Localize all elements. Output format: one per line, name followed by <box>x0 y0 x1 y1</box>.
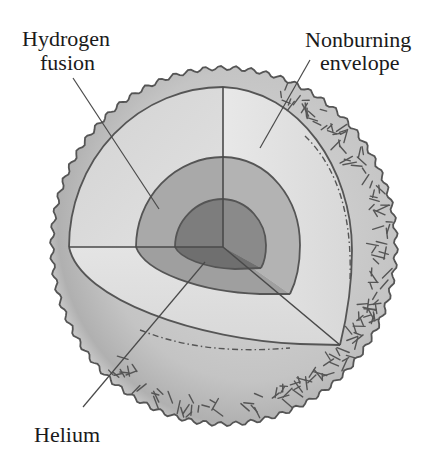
label-hydrogen-fusion-line1: Hydrogen <box>22 26 110 51</box>
label-hydrogen-fusion-line2: fusion <box>40 50 95 75</box>
label-nonburning-envelope-line2: envelope <box>320 50 399 75</box>
label-nonburning-envelope-line1: Nonburning <box>305 27 411 52</box>
label-helium: Helium <box>34 422 100 447</box>
star-structure-diagram: Hydrogen fusion Nonburning envelope Heli… <box>0 0 443 456</box>
